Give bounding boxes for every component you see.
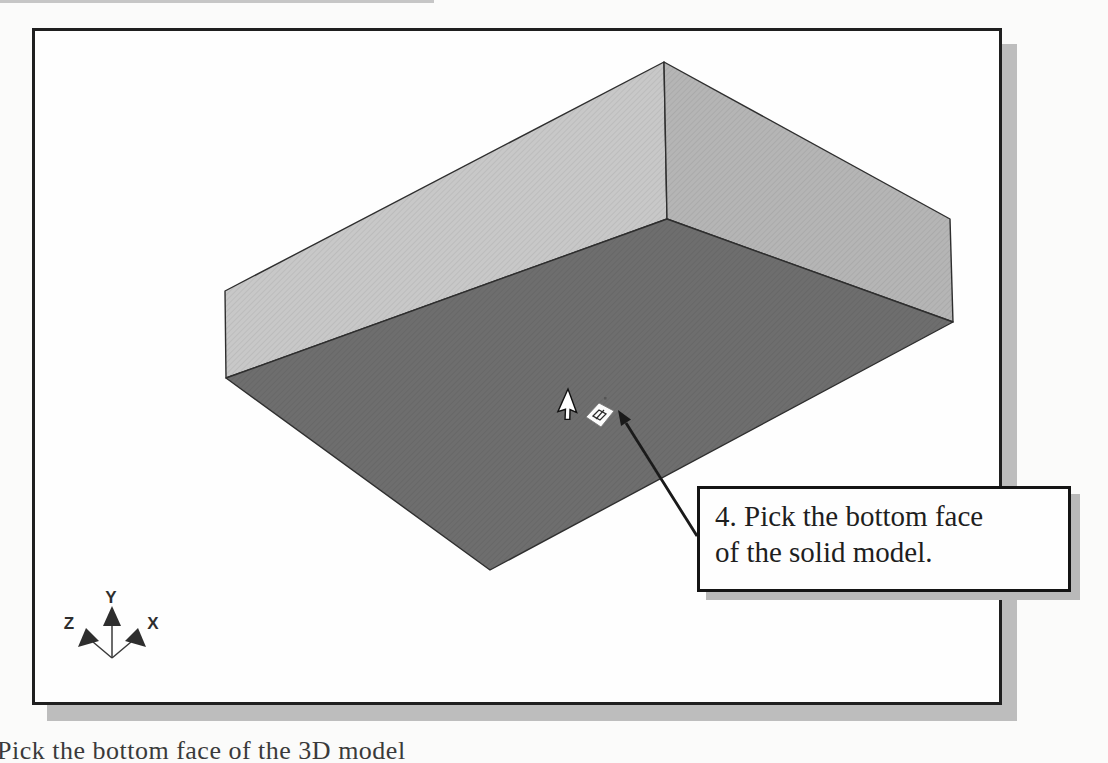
y-axis-label: Y [105, 588, 117, 607]
x-axis-label: X [147, 614, 159, 633]
callout-text-line2: of the solid model. [715, 534, 1068, 570]
orientation-triad-icon: Y Z X [64, 588, 160, 658]
callout-box: 4. Pick the bottom face of the solid mod… [697, 486, 1071, 592]
page-caption-cutoff: Pick the bottom face of the 3D model [0, 736, 406, 763]
scan-artifact-line [0, 0, 434, 3]
callout-text-line1: 4. Pick the bottom face [715, 498, 1068, 534]
y-axis-arrowhead [103, 606, 121, 626]
z-axis-label: Z [64, 614, 74, 633]
